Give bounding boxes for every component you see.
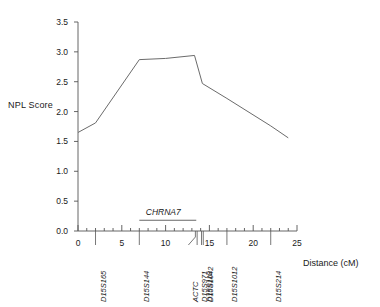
y-tick-label: 1.0 (46, 166, 68, 176)
x-tick-label: 20 (243, 238, 263, 248)
y-tick-label: 0.0 (46, 226, 68, 236)
marker-label: D15S1012 (230, 267, 239, 302)
y-tick-label: 1.5 (46, 136, 68, 146)
x-tick-label: 5 (112, 238, 132, 248)
y-tick-label: 3.0 (46, 47, 68, 57)
marker-leader-line (188, 231, 195, 245)
y-tick-label: 2.5 (46, 77, 68, 87)
x-axis-title: Distance (cM) (303, 258, 359, 268)
x-tick-label: 15 (199, 238, 219, 248)
npl-score-line (78, 55, 288, 137)
marker-label: D15S165 (99, 271, 108, 302)
x-tick-label: 0 (68, 238, 88, 248)
gene-annotation-label: CHRNA7 (146, 207, 181, 217)
y-tick-label: 0.5 (46, 196, 68, 206)
y-tick-label: 3.5 (46, 17, 68, 27)
marker-label: D15S1042 (206, 267, 215, 302)
marker-label: D15S214 (274, 271, 283, 302)
x-tick-label: 25 (287, 238, 307, 248)
npl-linkage-chart: NPL Score Distance (cM) 0.00.51.01.52.02… (0, 0, 380, 307)
x-tick-label: 10 (156, 238, 176, 248)
marker-label: D15S144 (142, 271, 151, 302)
y-tick-label: 2.0 (46, 107, 68, 117)
